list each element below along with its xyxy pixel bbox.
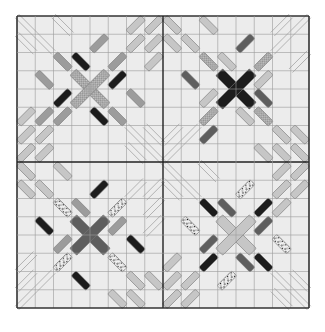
quilt-pattern xyxy=(0,0,325,332)
